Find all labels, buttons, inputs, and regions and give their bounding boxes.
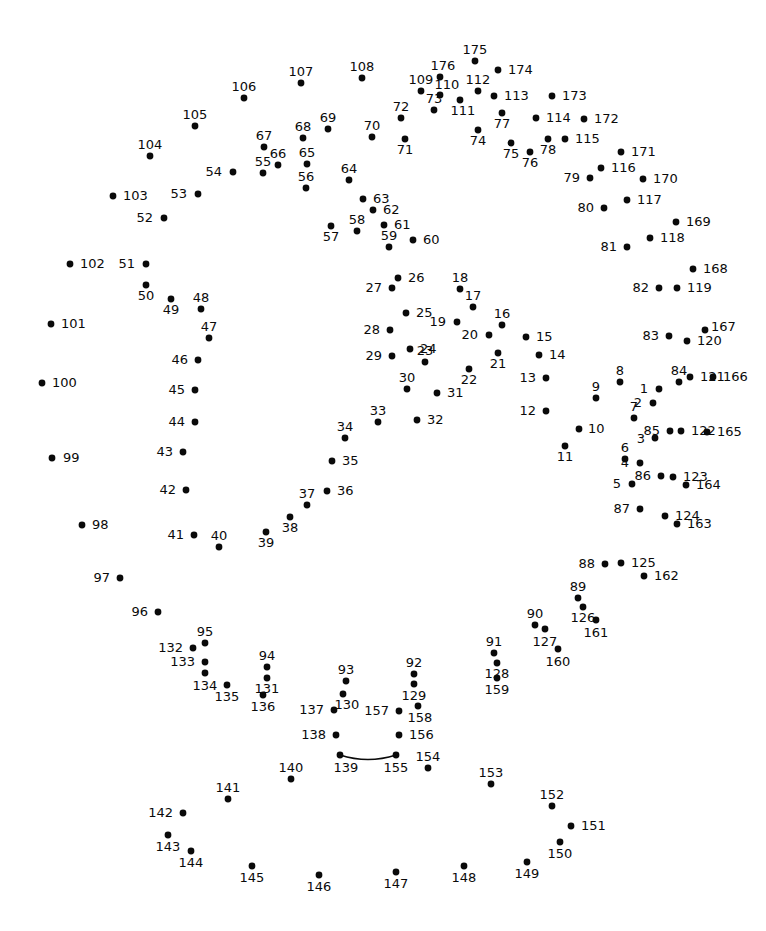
puzzle-dot[interactable] [325,126,332,133]
puzzle-dot[interactable] [543,408,550,415]
puzzle-dot[interactable] [183,487,190,494]
puzzle-dot[interactable] [202,659,209,666]
puzzle-dot[interactable] [617,379,624,386]
puzzle-dot[interactable] [333,732,340,739]
puzzle-dot[interactable] [117,575,124,582]
puzzle-dot[interactable] [260,170,267,177]
puzzle-dot[interactable] [216,544,223,551]
puzzle-dot[interactable] [304,502,311,509]
puzzle-dot[interactable] [206,335,213,342]
puzzle-dot[interactable] [454,319,461,326]
puzzle-dot[interactable] [495,67,502,74]
puzzle-dot[interactable] [191,532,198,539]
puzzle-dot[interactable] [329,458,336,465]
puzzle-dot[interactable] [275,162,282,169]
puzzle-dot[interactable] [687,374,694,381]
puzzle-dot[interactable] [48,321,55,328]
puzzle-dot[interactable] [190,645,197,652]
puzzle-dot[interactable] [647,235,654,242]
puzzle-dot[interactable] [499,322,506,329]
puzzle-dot[interactable] [359,75,366,82]
puzzle-dot[interactable] [656,285,663,292]
puzzle-dot[interactable] [180,810,187,817]
puzzle-dot[interactable] [195,357,202,364]
puzzle-dot[interactable] [486,332,493,339]
puzzle-dot[interactable] [461,863,468,870]
puzzle-dot[interactable] [67,261,74,268]
puzzle-dot[interactable] [637,460,644,467]
puzzle-dot[interactable] [656,386,663,393]
puzzle-dot[interactable] [673,219,680,226]
puzzle-dot[interactable] [404,386,411,393]
puzzle-dot[interactable] [532,622,539,629]
puzzle-dot[interactable] [403,310,410,317]
puzzle-dot[interactable] [690,266,697,273]
puzzle-dot[interactable] [155,609,162,616]
puzzle-dot[interactable] [602,561,609,568]
puzzle-dot[interactable] [230,169,237,176]
puzzle-dot[interactable] [180,449,187,456]
puzzle-dot[interactable] [624,244,631,251]
puzzle-dot[interactable] [601,205,608,212]
puzzle-dot[interactable] [631,415,638,422]
puzzle-dot[interactable] [337,752,344,759]
puzzle-dot[interactable] [395,275,402,282]
puzzle-dot[interactable] [79,522,86,529]
puzzle-dot[interactable] [674,285,681,292]
puzzle-dot[interactable] [202,640,209,647]
puzzle-dot[interactable] [398,115,405,122]
puzzle-dot[interactable] [143,261,150,268]
puzzle-dot[interactable] [533,115,540,122]
puzzle-dot[interactable] [618,560,625,567]
puzzle-dot[interactable] [324,488,331,495]
puzzle-dot[interactable] [261,144,268,151]
puzzle-dot[interactable] [202,670,209,677]
puzzle-dot[interactable] [188,848,195,855]
puzzle-dot[interactable] [342,435,349,442]
puzzle-dot[interactable] [360,196,367,203]
puzzle-dot[interactable] [575,595,582,602]
puzzle-dot[interactable] [147,153,154,160]
puzzle-dot[interactable] [425,765,432,772]
puzzle-dot[interactable] [549,803,556,810]
puzzle-dot[interactable] [411,681,418,688]
puzzle-dot[interactable] [393,752,400,759]
puzzle-dot[interactable] [549,93,556,100]
puzzle-dot[interactable] [536,352,543,359]
puzzle-dot[interactable] [300,135,307,142]
puzzle-dot[interactable] [192,419,199,426]
puzzle-dot[interactable] [422,359,429,366]
puzzle-dot[interactable] [375,419,382,426]
puzzle-dot[interactable] [666,333,673,340]
puzzle-dot[interactable] [224,682,231,689]
puzzle-dot[interactable] [624,197,631,204]
puzzle-dot[interactable] [298,80,305,87]
puzzle-dot[interactable] [369,134,376,141]
puzzle-dot[interactable] [593,395,600,402]
puzzle-dot[interactable] [640,176,647,183]
puzzle-dot[interactable] [562,136,569,143]
puzzle-dot[interactable] [598,165,605,172]
puzzle-dot[interactable] [457,286,464,293]
puzzle-dot[interactable] [684,338,691,345]
puzzle-dot[interactable] [198,306,205,313]
puzzle-dot[interactable] [475,88,482,95]
puzzle-dot[interactable] [192,387,199,394]
puzzle-dot[interactable] [470,304,477,311]
puzzle-dot[interactable] [303,185,310,192]
puzzle-dot[interactable] [389,285,396,292]
puzzle-dot[interactable] [249,863,256,870]
puzzle-dot[interactable] [195,191,202,198]
puzzle-dot[interactable] [192,123,199,130]
puzzle-dot[interactable] [491,93,498,100]
puzzle-dot[interactable] [542,626,549,633]
puzzle-dot[interactable] [587,175,594,182]
puzzle-dot[interactable] [396,708,403,715]
puzzle-dot[interactable] [161,215,168,222]
puzzle-dot[interactable] [488,781,495,788]
puzzle-dot[interactable] [304,161,311,168]
puzzle-dot[interactable] [662,513,669,520]
puzzle-dot[interactable] [523,334,530,341]
puzzle-dot[interactable] [396,732,403,739]
puzzle-dot[interactable] [557,839,564,846]
